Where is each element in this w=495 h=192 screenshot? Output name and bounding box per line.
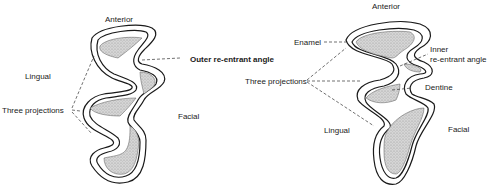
left-anterior-label: Anterior <box>105 15 133 24</box>
right-facial-label: Facial <box>448 125 469 134</box>
tooth-diagrams <box>0 0 495 192</box>
left-three-projections-label: Three projections <box>2 106 64 115</box>
right-three-projections-label: Three projections <box>245 77 307 86</box>
left-lingual-label: Lingual <box>25 72 51 81</box>
right-enamel-label: Enamel <box>294 38 321 47</box>
right-reentrant-angle-label: re-entrant angle <box>430 55 486 64</box>
right-dentine-label: Dentine <box>425 83 453 92</box>
right-anterior-label: Anterior <box>372 2 400 11</box>
right-lingual-label: Lingual <box>324 126 350 135</box>
left-outer-reentrant-angle-label: Outer re-entrant angle <box>190 55 274 64</box>
left-facial-label: Facial <box>178 112 199 121</box>
right-inner-label: Inner <box>430 45 448 54</box>
